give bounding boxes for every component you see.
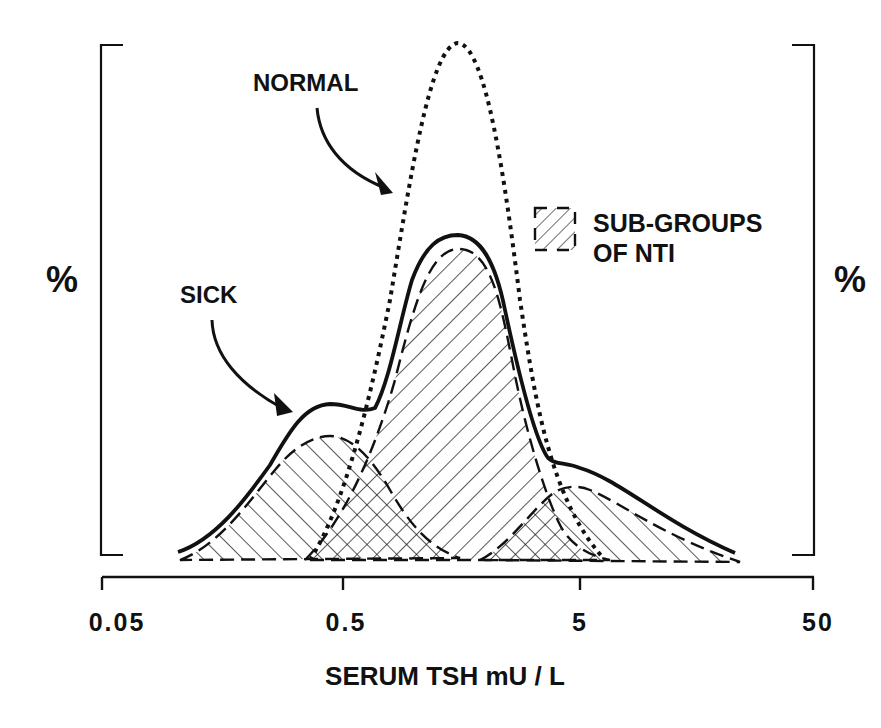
legend: SUB-GROUPS OF NTI (535, 208, 762, 267)
legend-hatch-swatch (535, 208, 575, 250)
legend-label-line1: SUB-GROUPS (593, 209, 762, 237)
x-tick-label-1: 0.5 (326, 608, 367, 636)
x-tick-label-0: 0.05 (89, 608, 146, 636)
legend-label-line2: OF NTI (593, 239, 675, 267)
x-axis-title: SERUM TSH mU / L (325, 661, 565, 691)
sick-arrow (212, 320, 282, 408)
sick-label: SICK (180, 281, 238, 308)
x-axis: 0.05 0.5 5 50 SERUM TSH mU / L (89, 577, 834, 691)
normal-label: NORMAL (253, 69, 358, 96)
chart-canvas: % % NORMAL SICK SUB-GROUPS OF NTI 0.05 0… (0, 0, 881, 728)
y-axis-label-right: % (834, 259, 866, 300)
x-tick-label-3: 50 (802, 608, 834, 636)
sick-arrowhead (274, 393, 293, 416)
normal-arrow (317, 108, 385, 188)
x-tick-label-2: 5 (572, 608, 588, 636)
y-axis-label-left: % (46, 259, 78, 300)
left-y-bracket (101, 45, 123, 555)
right-y-bracket (792, 45, 814, 555)
